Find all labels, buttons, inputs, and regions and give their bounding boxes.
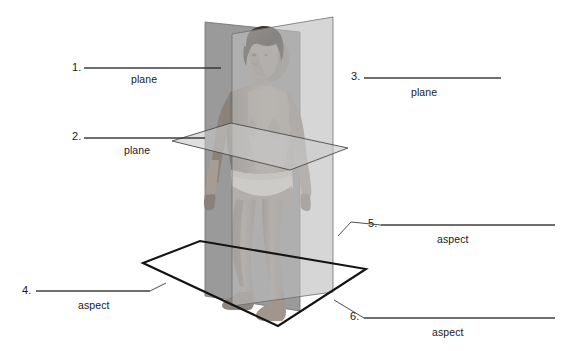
leader-line-4: [36, 283, 166, 291]
label-word-6: aspect: [432, 326, 464, 338]
label-number-4: 4.: [22, 284, 31, 296]
label-word-5: aspect: [437, 233, 469, 245]
label-word-4: aspect: [78, 299, 110, 311]
label-number-1: 1.: [72, 61, 81, 73]
label-word-1: plane: [131, 73, 157, 85]
leader-line-6: [334, 300, 555, 318]
label-number-5: 5.: [368, 217, 377, 229]
label-number-6: 6.: [350, 310, 359, 322]
label-number-2: 2.: [72, 130, 81, 142]
label-word-3: plane: [411, 86, 437, 98]
label-word-2: plane: [124, 144, 150, 156]
anatomical-planes-figure: 1. plane 2. plane 3. plane 4. aspect 5. …: [0, 0, 577, 351]
label-number-3: 3.: [351, 70, 360, 82]
